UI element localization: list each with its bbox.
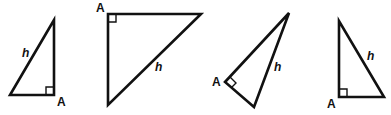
hypotenuse-label: h — [155, 60, 162, 74]
hypotenuse-label: h — [274, 60, 281, 74]
triangle-1-shape — [10, 20, 54, 95]
hypotenuse-label: h — [367, 49, 374, 63]
right-angle-vertex-label: A — [212, 75, 221, 89]
triangle-3: h A — [212, 13, 289, 107]
right-triangles-diagram: h A h A h A h A — [0, 0, 391, 115]
triangle-1: h A — [10, 20, 66, 109]
triangle-2: h A — [96, 1, 201, 105]
triangles-canvas: h A h A h A h A — [0, 0, 391, 115]
triangle-4: h A — [327, 21, 384, 111]
right-angle-vertex-label: A — [327, 97, 336, 111]
hypotenuse-label: h — [22, 46, 29, 60]
triangle-4-shape — [339, 21, 384, 97]
right-angle-vertex-label: A — [96, 1, 105, 15]
right-angle-vertex-label: A — [57, 95, 66, 109]
